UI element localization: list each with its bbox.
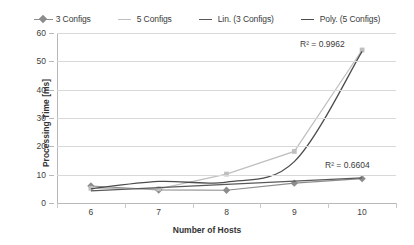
y-axis-tick-label: 0 bbox=[41, 198, 46, 208]
y-axis-tick bbox=[49, 90, 54, 91]
legend-item-lin-3-configs[interactable]: Lin. (3 Configs) bbox=[196, 14, 274, 24]
x-axis-tick bbox=[396, 203, 397, 208]
r-squared-poly-annotation: R² = 0.9962 bbox=[300, 39, 345, 49]
y-axis-tick-label: 50 bbox=[37, 56, 46, 66]
legend-label-lin-3-configs: Lin. (3 Configs) bbox=[218, 14, 274, 24]
gridline bbox=[57, 175, 396, 176]
plot-area: 0102030405060678910 bbox=[57, 33, 396, 203]
x-axis-tick bbox=[260, 203, 261, 208]
y-axis-tick bbox=[49, 118, 54, 119]
y-axis-tick-label: 30 bbox=[37, 113, 46, 123]
y-axis-tick bbox=[49, 175, 54, 176]
y-axis-tick-label: 40 bbox=[37, 85, 46, 95]
y-axis-tick-label: 20 bbox=[37, 141, 46, 151]
gridline bbox=[57, 146, 396, 147]
legend-line-icon bbox=[196, 15, 215, 24]
x-axis-tick bbox=[193, 203, 194, 208]
x-axis-tick-label: 10 bbox=[357, 207, 366, 217]
x-axis-tick bbox=[57, 203, 58, 208]
y-axis-tick bbox=[49, 146, 54, 147]
data-point-marker bbox=[292, 149, 297, 154]
legend-item-5-configs[interactable]: 5 Configs bbox=[115, 14, 172, 24]
trendline-path bbox=[91, 51, 362, 188]
series-path bbox=[91, 50, 362, 189]
gridline bbox=[57, 90, 396, 91]
x-axis-tick bbox=[328, 203, 329, 208]
x-axis-title: Number of Hosts bbox=[0, 225, 414, 235]
y-axis-tick-label: 10 bbox=[37, 170, 46, 180]
legend-item-poly-5-configs[interactable]: Poly. (5 Configs) bbox=[298, 14, 381, 24]
chart-legend: 3 Configs 5 Configs Lin. (3 Configs) Pol… bbox=[0, 14, 414, 24]
legend-label-5-configs: 5 Configs bbox=[137, 14, 172, 24]
x-axis-tick bbox=[125, 203, 126, 208]
r-squared-lin-annotation: R² = 0.6604 bbox=[325, 160, 370, 170]
data-point-marker bbox=[358, 175, 365, 182]
legend-marker-diamond-icon bbox=[34, 15, 53, 24]
chart-container: 3 Configs 5 Configs Lin. (3 Configs) Pol… bbox=[0, 0, 414, 245]
legend-label-poly-5-configs: Poly. (5 Configs) bbox=[320, 14, 381, 24]
legend-line-icon bbox=[298, 15, 317, 24]
series-poly-5-configs bbox=[91, 51, 362, 188]
x-axis-tick-label: 8 bbox=[224, 207, 229, 217]
data-point-marker bbox=[223, 187, 230, 194]
x-axis-tick-label: 9 bbox=[292, 207, 297, 217]
gridline bbox=[57, 118, 396, 119]
x-axis-line bbox=[57, 203, 396, 204]
y-axis-tick bbox=[49, 33, 54, 34]
legend-label-3-configs: 3 Configs bbox=[56, 14, 91, 24]
series-5-configs bbox=[89, 48, 365, 192]
gridline bbox=[57, 61, 396, 62]
y-axis-tick-label: 60 bbox=[37, 28, 46, 38]
y-axis-tick bbox=[49, 61, 54, 62]
x-axis-tick-label: 7 bbox=[156, 207, 161, 217]
gridline bbox=[57, 33, 396, 34]
y-axis-tick bbox=[49, 203, 54, 204]
legend-line-icon bbox=[115, 15, 134, 24]
legend-item-3-configs[interactable]: 3 Configs bbox=[34, 14, 91, 24]
x-axis-tick-label: 6 bbox=[89, 207, 94, 217]
